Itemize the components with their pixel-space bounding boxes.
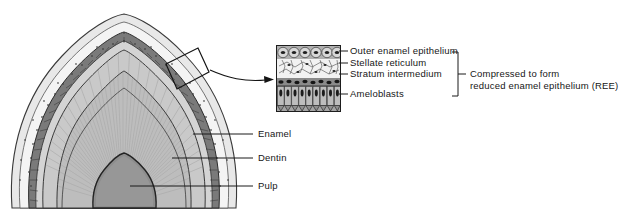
tooth-leader-lines	[0, 0, 637, 216]
tooth-label-pulp: Pulp	[258, 181, 278, 191]
tooth-label-enamel: Enamel	[258, 129, 291, 139]
figure-canvas: Outer enamel epithelium Stellate reticul…	[0, 0, 637, 216]
tooth-label-dentin: Dentin	[258, 153, 287, 163]
